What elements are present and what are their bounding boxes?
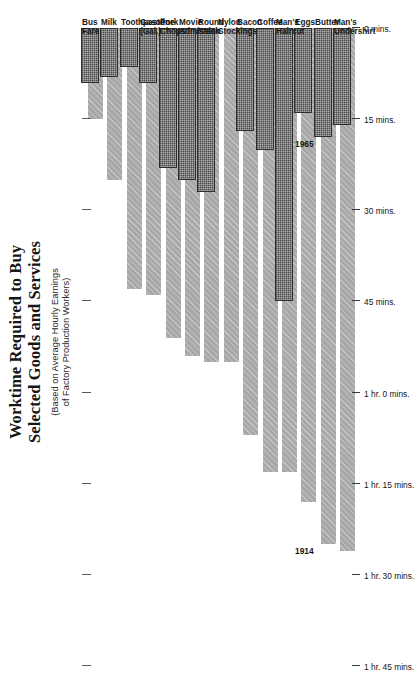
bar-rows	[80, 0, 352, 684]
bar-1965	[178, 28, 196, 180]
series-annotation-1965: 1965	[295, 139, 314, 149]
chart-title: Worktime Required to Buy Selected Goods …	[6, 0, 44, 684]
axis-tick-label: 45 mins.	[364, 297, 396, 307]
chart-subtitle: (Based on Average Hourly Earnings of Fac…	[50, 0, 72, 684]
axis-tick	[352, 483, 360, 484]
bar-1965	[333, 28, 351, 125]
bar-row	[162, 0, 180, 684]
bar-1965	[159, 28, 177, 168]
bar-row	[181, 0, 199, 684]
axis-tick	[352, 392, 360, 393]
axis-tick-label: 1 hr. 0 mins.	[364, 389, 410, 399]
bar-1965	[256, 28, 274, 150]
bar-row	[278, 0, 296, 684]
bar-1965	[81, 28, 99, 83]
plot-area	[80, 0, 352, 684]
axis-tick-stub	[82, 209, 91, 210]
axis-tick	[352, 118, 360, 119]
bar-1965	[314, 28, 332, 137]
bar-1965	[294, 28, 312, 113]
chart-title-line-2: Selected Goods and Services	[25, 0, 44, 684]
category-label: Eggs	[295, 19, 315, 28]
bar-row	[259, 0, 277, 684]
axis-tick-label: 30 mins.	[364, 206, 396, 216]
bar-row	[239, 0, 257, 684]
axis-tick	[352, 300, 360, 301]
bar-row	[317, 0, 335, 684]
axis-tick	[352, 574, 360, 575]
axis-tick-stub	[82, 300, 91, 301]
bar-row	[200, 0, 218, 684]
axis-tick-label: 15 mins.	[364, 115, 396, 125]
chart-title-line-1: Worktime Required to Buy	[6, 0, 25, 684]
axis-tick-stub	[82, 392, 91, 393]
axis-tick	[352, 665, 360, 666]
chart-subtitle-line-2: of Factory Production Workers)	[61, 0, 72, 684]
chart-subtitle-line-1: (Based on Average Hourly Earnings	[50, 0, 61, 684]
axis-tick-stub	[82, 574, 91, 575]
axis-tick-stub	[82, 118, 91, 119]
bar-1965	[236, 28, 254, 131]
category-label: Milk	[101, 19, 117, 28]
bar-row	[84, 0, 102, 684]
bar-row	[142, 0, 160, 684]
axis-tick-label: 1 hr. 15 mins.	[364, 480, 414, 490]
axis-tick	[352, 209, 360, 210]
series-annotation-1914: 1914	[295, 546, 314, 556]
bar-row	[220, 0, 238, 684]
axis-tick-stub	[82, 665, 91, 666]
bar-1965	[197, 28, 215, 192]
bar-row	[123, 0, 141, 684]
bar-1965	[275, 28, 293, 301]
category-label: Man's Undershirt	[334, 19, 375, 36]
bar-1965	[100, 28, 118, 77]
axis-tick-label: 1 hr. 45 mins.	[364, 662, 414, 672]
bar-1965	[139, 28, 157, 83]
axis-tick-label: 1 hr. 30 mins.	[364, 571, 414, 581]
axis-tick-stub	[82, 483, 91, 484]
bar-1965	[120, 28, 138, 67]
category-label: Bus Fare	[82, 19, 101, 36]
value-axis: 1 hr. 45 mins.1 hr. 30 mins.1 hr. 15 min…	[352, 0, 356, 684]
bar-row	[103, 0, 121, 684]
bar-row	[297, 0, 315, 684]
